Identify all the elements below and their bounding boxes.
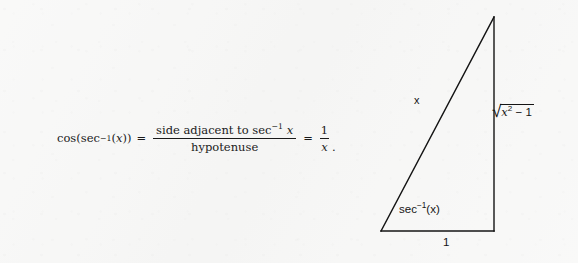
equals-sign-second: =	[303, 132, 313, 145]
opposite-side-label: √ x2 − 1	[492, 104, 534, 119]
lhs-close-paren: )	[127, 132, 132, 145]
result-denominator: x	[320, 139, 329, 153]
equation-expression: cos(sec−1(x)) = side adjacent to sec−1 x…	[57, 124, 336, 153]
sec-function-name: sec	[81, 132, 100, 145]
angle-function-name: sec	[399, 203, 417, 215]
terminal-period: .	[332, 141, 336, 154]
fraction-denominator: hypotenuse	[188, 139, 261, 153]
angle-exponent: −1	[417, 201, 426, 210]
definition-fraction: side adjacent to sec−1 x hypotenuse	[153, 124, 296, 153]
cos-function-name: cos	[57, 132, 76, 145]
radicand-remainder: − 1	[516, 106, 532, 118]
base-label: 1	[443, 236, 449, 248]
figure-page: cos(sec−1(x)) = side adjacent to sec−1 x…	[0, 0, 578, 263]
numerator-exponent: −1	[271, 122, 283, 131]
hypotenuse-line	[381, 17, 494, 231]
fraction-numerator: side adjacent to sec−1 x	[153, 124, 296, 138]
angle-label: sec−1(x)	[399, 203, 440, 215]
radical-sign-icon: √	[492, 105, 501, 119]
radicand-exponent: 2	[508, 104, 512, 113]
right-triangle-figure: x sec−1(x) √ x2 − 1 1	[368, 0, 578, 263]
result-fraction: 1 x	[320, 124, 329, 153]
triangle-drawing	[368, 0, 578, 263]
equals-sign-first: =	[136, 132, 146, 145]
square-root-expression: √ x2 − 1	[492, 104, 534, 119]
angle-argument: (x)	[426, 203, 439, 215]
hypotenuse-label: x	[414, 94, 420, 106]
radicand: x2 − 1	[500, 104, 534, 119]
numerator-variable-x: x	[287, 123, 294, 137]
numerator-text: side adjacent to sec	[156, 123, 271, 137]
result-numerator: 1	[320, 124, 329, 138]
